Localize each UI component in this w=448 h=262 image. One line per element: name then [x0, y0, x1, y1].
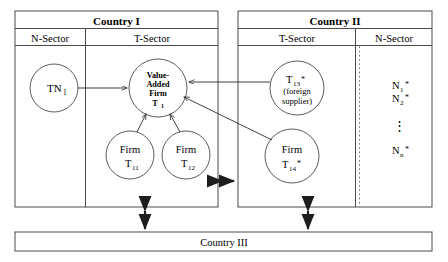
svg-text:14: 14	[289, 165, 297, 173]
svg-text:T: T	[125, 158, 132, 169]
country-1-t-sector-label: T-Sector	[134, 33, 170, 44]
diagram-svg: Country I Country II N-Sector T-Sector T…	[0, 0, 448, 262]
svg-text:1: 1	[161, 103, 164, 109]
svg-text:*: *	[405, 93, 409, 102]
svg-text:T: T	[181, 158, 188, 169]
svg-text:2: 2	[400, 99, 404, 107]
svg-text:n: n	[400, 151, 404, 159]
svg-text:Firm: Firm	[149, 89, 167, 98]
svg-text:*: *	[301, 75, 305, 84]
svg-text:1: 1	[63, 88, 67, 97]
n-item-1: N	[392, 80, 400, 91]
svg-text:T: T	[282, 159, 289, 170]
svg-text:*: *	[297, 159, 301, 168]
diagram-canvas: Country I Country II N-Sector T-Sector T…	[0, 0, 448, 262]
country-2-n-sector-label: N-Sector	[375, 33, 413, 44]
country-2-t-sector-label: T-Sector	[279, 33, 315, 44]
svg-text:*: *	[405, 80, 409, 89]
svg-text:1: 1	[400, 86, 404, 94]
n-item-2: N	[392, 93, 400, 104]
svg-text:Firm: Firm	[176, 144, 196, 155]
svg-text:T: T	[286, 74, 293, 85]
node-firm-t14	[265, 129, 319, 183]
svg-text:TN: TN	[47, 82, 62, 94]
svg-text:T: T	[152, 99, 158, 108]
svg-text:Added: Added	[146, 80, 170, 89]
node-firm-t12	[162, 131, 210, 179]
country-1-title: Country I	[93, 15, 140, 27]
ellipsis-dots: ⋮	[393, 118, 406, 133]
country-2-title: Country II	[309, 15, 360, 27]
node-firm-t11	[106, 131, 154, 179]
svg-text:Value-: Value-	[147, 71, 170, 80]
svg-text:Firm: Firm	[282, 144, 302, 155]
country-3-title: Country III	[200, 237, 248, 248]
svg-text:*: *	[405, 145, 409, 154]
svg-text:12: 12	[188, 164, 196, 172]
n-item-n: N	[392, 145, 400, 156]
svg-text:Firm: Firm	[120, 144, 140, 155]
svg-text:supplier): supplier)	[282, 96, 312, 106]
svg-text:11: 11	[132, 164, 139, 172]
country-1-n-sector-label: N-Sector	[31, 33, 69, 44]
svg-text:(foreign: (foreign	[283, 86, 311, 96]
